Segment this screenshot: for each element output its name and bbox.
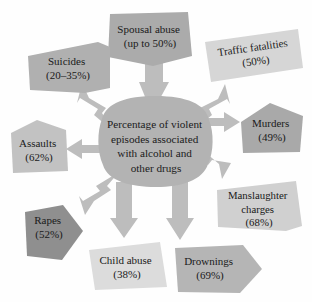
node-traffic-fatalities[interactable]: Traffic fatalities (50%) [205, 29, 303, 82]
node-suicides[interactable]: Suicides (20–35%) [28, 42, 110, 93]
node-label-spousal-abuse: Spousal abuse (up to 50%) [117, 23, 182, 50]
concept-map-svg: Percentage of violent episodes associate… [0, 0, 312, 302]
diagram-canvas: Percentage of violent episodes associate… [0, 0, 312, 302]
arrow-to-child-abuse [110, 182, 138, 238]
node-label-suicides: Suicides (20–35%) [46, 55, 90, 82]
node-shape-suicides [28, 42, 110, 93]
node-rapes[interactable]: Rapes (52%) [25, 205, 83, 260]
node-shape-child-abuse [89, 242, 167, 290]
node-assaults[interactable]: Assaults (62%) [11, 120, 68, 173]
arrow-to-drownings [166, 182, 194, 240]
node-child-abuse[interactable]: Child abuse (38%) [89, 242, 167, 290]
node-spousal-abuse[interactable]: Spousal abuse (up to 50%) [108, 12, 192, 66]
node-manslaughter-charges[interactable]: Manslaughter charges (68%) [217, 181, 302, 231]
arrow-to-assaults [66, 139, 101, 159]
center-node: Percentage of violent episodes associate… [98, 96, 212, 187]
node-murders[interactable]: Murders (49%) [241, 103, 303, 153]
arrow-to-rapes [79, 172, 119, 215]
node-drownings[interactable]: Drownings (69%) [175, 245, 262, 293]
node-label-rapes: Rapes (52%) [34, 214, 64, 241]
